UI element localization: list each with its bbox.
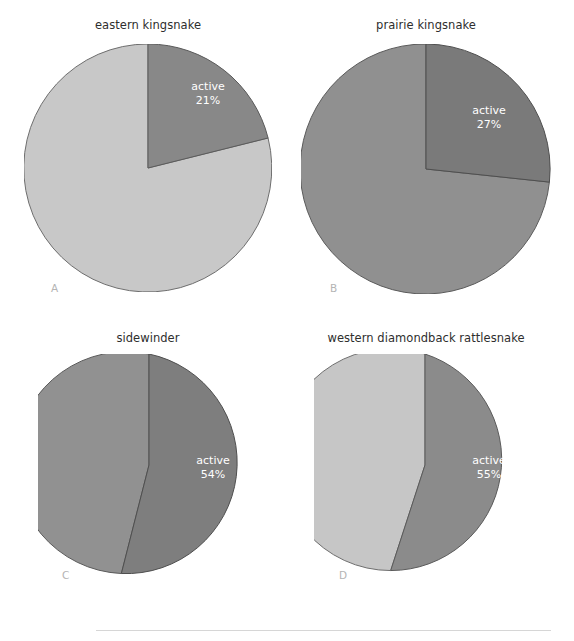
panel-c: sidewinder active 54% C: [0, 331, 296, 611]
panel-a-pie-svg: [24, 44, 272, 292]
panel-a-pie: active 21%: [24, 44, 272, 292]
panel-a-title: eastern kingsnake: [0, 18, 296, 32]
pie-chart-figure: eastern kingsnake active 21% A prairie k…: [0, 0, 574, 641]
panel-c-pie: active 54%: [38, 354, 260, 576]
panel-d-letter: D: [339, 569, 347, 581]
panel-a-letter: A: [51, 282, 58, 294]
panel-d-title: western diamondback rattlesnake: [278, 331, 574, 345]
panel-c-pie-svg: [38, 354, 260, 576]
panel-b-letter: B: [330, 282, 337, 294]
panel-b-slice-active: [426, 44, 550, 182]
panel-b-pie-svg: [301, 44, 551, 294]
panel-b: prairie kingsnake active 27% B: [278, 18, 574, 310]
panel-b-title: prairie kingsnake: [278, 18, 574, 32]
panel-c-title: sidewinder: [0, 331, 296, 345]
panel-b-pie: active 27%: [301, 44, 551, 294]
panel-c-letter: C: [62, 569, 69, 581]
footer-divider: [96, 630, 551, 631]
panel-d-pie: active 55%: [314, 354, 536, 576]
panel-d-pie-svg: [314, 354, 536, 576]
panel-a: eastern kingsnake active 21% A: [0, 18, 296, 310]
panel-d: western diamondback rattlesnake active 5…: [278, 331, 574, 611]
